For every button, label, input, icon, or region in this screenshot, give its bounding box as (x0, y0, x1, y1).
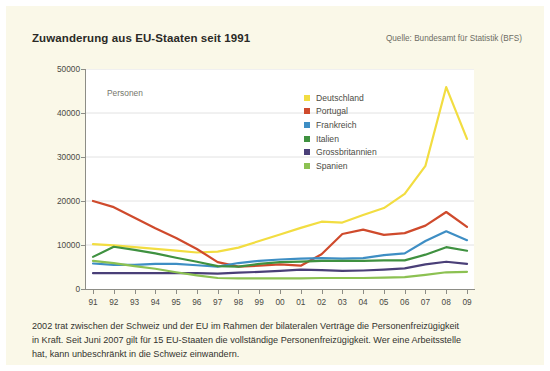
y-axis-labels: 50000400003000020000100000 (16, 6, 80, 365)
x-tick-mark (176, 290, 177, 294)
caption-text: 2002 trat zwischen der Schweiz und der E… (32, 319, 524, 362)
legend-label: Portugal (316, 106, 348, 116)
legend-item-grossbritannien[interactable]: Grossbritannien (304, 145, 377, 159)
legend-swatch-icon (304, 95, 310, 101)
caption-line-2: in Kraft. Seit Juni 2007 gilt für 15 EU-… (32, 333, 524, 347)
chart-legend: DeutschlandPortugalFrankreichItalienGros… (304, 91, 377, 173)
x-tick-mark (93, 290, 94, 294)
line-chart (86, 69, 474, 289)
y-tick-label: 40000 (57, 108, 80, 118)
x-tick-mark (218, 290, 219, 294)
x-tick-label: 00 (270, 297, 290, 307)
caption-line-1: 2002 trat zwischen der Schweiz und der E… (32, 319, 524, 333)
x-tick-mark (135, 290, 136, 294)
x-tick-label: 06 (395, 297, 415, 307)
x-tick-mark (301, 290, 302, 294)
y-tick-mark (81, 157, 85, 158)
x-tick-label: 96 (187, 297, 207, 307)
y-tick-mark (81, 289, 85, 290)
legend-label: Italien (316, 134, 339, 144)
y-tick-label: 10000 (57, 240, 80, 250)
x-tick-mark (467, 290, 468, 294)
x-tick-label: 02 (312, 297, 332, 307)
legend-label: Frankreich (316, 120, 357, 130)
infographic-page: Zuwanderung aus EU-Staaten seit 1991 Que… (6, 6, 544, 365)
x-tick-label: 01 (291, 297, 311, 307)
x-tick-mark (114, 290, 115, 294)
legend-swatch-icon (304, 108, 310, 114)
x-tick-mark (405, 290, 406, 294)
x-tick-mark (197, 290, 198, 294)
x-tick-label: 91 (83, 297, 103, 307)
x-tick-label: 97 (208, 297, 228, 307)
x-tick-label: 04 (353, 297, 373, 307)
legend-swatch-icon (304, 149, 310, 155)
y-tick-label: 30000 (57, 152, 80, 162)
x-tick-label: 99 (249, 297, 269, 307)
caption-line-3: hat, kann unbeschränkt in die Schweiz ei… (32, 347, 524, 361)
legend-item-deutschland[interactable]: Deutschland (304, 91, 377, 105)
x-tick-mark (155, 290, 156, 294)
y-tick-label: 20000 (57, 196, 80, 206)
legend-swatch-icon (304, 122, 310, 128)
x-tick-label: 92 (104, 297, 124, 307)
legend-swatch-icon (304, 163, 310, 169)
x-tick-mark (384, 290, 385, 294)
x-tick-label: 94 (145, 297, 165, 307)
y-tick-mark (81, 69, 85, 70)
legend-item-frankreich[interactable]: Frankreich (304, 118, 377, 132)
legend-item-portugal[interactable]: Portugal (304, 105, 377, 119)
y-tick-mark (81, 113, 85, 114)
x-tick-mark (425, 290, 426, 294)
y-tick-mark (81, 245, 85, 246)
x-tick-mark (322, 290, 323, 294)
x-tick-mark (280, 290, 281, 294)
y-axis-line (85, 69, 86, 290)
series-line-deutschland (93, 87, 467, 252)
y-tick-mark (81, 201, 85, 202)
x-tick-label: 03 (332, 297, 352, 307)
x-tick-label: 09 (457, 297, 477, 307)
x-tick-mark (446, 290, 447, 294)
x-tick-label: 93 (125, 297, 145, 307)
x-tick-label: 95 (166, 297, 186, 307)
legend-swatch-icon (304, 136, 310, 142)
x-tick-label: 05 (374, 297, 394, 307)
x-tick-mark (363, 290, 364, 294)
x-tick-mark (259, 290, 260, 294)
chart-plot-area (86, 69, 474, 289)
legend-label: Deutschland (316, 93, 364, 103)
x-tick-label: 98 (228, 297, 248, 307)
legend-item-italien[interactable]: Italien (304, 132, 377, 146)
x-tick-mark (342, 290, 343, 294)
y-tick-label: 50000 (57, 64, 80, 74)
legend-label: Grossbritannien (316, 147, 377, 157)
legend-label: Spanien (316, 161, 348, 171)
y-tick-label: 0 (75, 284, 80, 294)
x-tick-mark (238, 290, 239, 294)
x-tick-label: 08 (436, 297, 456, 307)
legend-item-spanien[interactable]: Spanien (304, 159, 377, 173)
source-credit: Quelle: Bundesamt für Statistik (BFS) (386, 34, 522, 43)
x-tick-label: 07 (415, 297, 435, 307)
y-axis-title: Personen (107, 88, 143, 98)
